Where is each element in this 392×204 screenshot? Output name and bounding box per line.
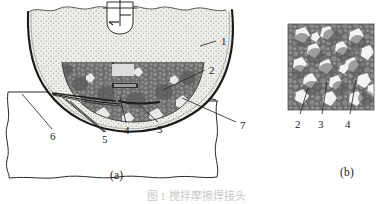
panel-b: 2 3 4 [282, 18, 392, 178]
panel-b-callouts: 2 3 4 [295, 118, 351, 130]
figure-caption: 图 1 搅拌摩擦焊接头 [0, 190, 392, 203]
callout-b-3: 3 [318, 118, 324, 130]
figure-root: 1 2 3 4 5 6 7 [0, 0, 392, 204]
callout-5: 5 [102, 133, 108, 145]
callout-1: 1 [221, 35, 227, 47]
panel-a: 1 2 3 4 5 6 7 [0, 0, 268, 182]
callout-b-2: 2 [295, 118, 301, 130]
callout-2: 2 [209, 64, 215, 76]
micrograph-image [288, 24, 379, 110]
panel-b-drawing: 2 3 4 [282, 18, 392, 178]
callout-4: 4 [124, 124, 130, 136]
panel-a-caption: (a) [110, 169, 123, 181]
callout-b-4: 4 [345, 118, 351, 130]
panel-a-drawing: 1 2 3 4 5 6 7 [0, 0, 268, 182]
panel-b-caption: (b) [340, 166, 354, 178]
callout-3: 3 [157, 123, 163, 135]
callout-6: 6 [50, 130, 56, 142]
callout-7: 7 [240, 119, 246, 131]
